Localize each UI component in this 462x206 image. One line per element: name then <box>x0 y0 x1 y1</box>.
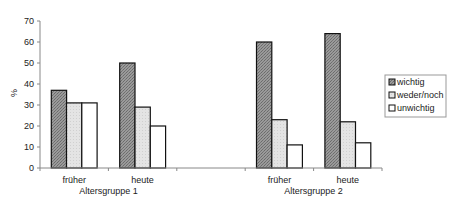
bar-weder-noch <box>272 120 287 168</box>
bar-unwichtig <box>356 143 371 168</box>
y-tick-label: 40 <box>24 79 34 89</box>
bar-weder-noch <box>135 107 150 168</box>
bar-unwichtig <box>150 126 165 168</box>
y-tick-label: 30 <box>24 100 34 110</box>
legend-label: weder/noch <box>396 90 444 100</box>
y-axis: 010203040506070 <box>24 16 40 173</box>
category-label: heute <box>337 175 360 185</box>
bar-unwichtig <box>82 103 97 168</box>
group-label: Altersgruppe 1 <box>79 186 138 196</box>
bar-wichtig <box>120 63 135 168</box>
y-axis-label: % <box>9 89 19 97</box>
y-axis-title: % <box>9 89 19 97</box>
bar-wichtig <box>51 90 66 168</box>
y-tick-label: 0 <box>29 163 34 173</box>
x-axis <box>40 168 382 171</box>
legend-swatch <box>389 79 395 85</box>
bar-weder-noch <box>67 103 82 168</box>
category-label: heute <box>131 175 154 185</box>
legend-swatch <box>389 105 395 111</box>
y-tick-label: 20 <box>24 121 34 131</box>
bar-wichtig <box>325 34 340 168</box>
bar-chart: 010203040506070 % früherheuteAltersgrupp… <box>0 0 462 206</box>
x-axis-labels: früherheuteAltersgruppe 1früherheuteAlte… <box>62 175 359 196</box>
legend-label: unwichtig <box>397 103 435 113</box>
y-tick-label: 50 <box>24 58 34 68</box>
legend-swatch <box>389 92 395 98</box>
group-label: Altersgruppe 2 <box>284 186 343 196</box>
category-label: früher <box>62 175 86 185</box>
bars <box>51 34 371 168</box>
bar-unwichtig <box>287 145 302 168</box>
legend-label: wichtig <box>396 77 425 87</box>
legend: wichtigweder/nochunwichtig <box>385 75 446 117</box>
y-tick-label: 10 <box>24 142 34 152</box>
bar-weder-noch <box>340 122 355 168</box>
y-tick-label: 60 <box>24 37 34 47</box>
category-label: früher <box>268 175 292 185</box>
y-tick-label: 70 <box>24 16 34 26</box>
bar-wichtig <box>257 42 272 168</box>
